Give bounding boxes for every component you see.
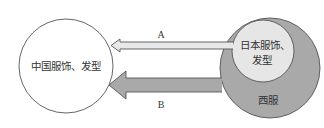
influence-diagram: 中国服饰、发型 西服 B 日本服饰、 发型 A [0, 0, 324, 128]
western-clothing-label: 西服 [258, 94, 279, 106]
japanese-clothing-label-line1: 日本服饰、 [240, 39, 290, 51]
japanese-clothing-node: 日本服饰、 发型 [232, 20, 294, 82]
japanese-clothing-label-line2: 发型 [252, 54, 272, 66]
arrow-b-label: B [158, 99, 165, 110]
chinese-clothing-node: 中国服饰、发型 [19, 19, 113, 113]
arrow-b-shape [109, 71, 222, 99]
arrow-a-shape [111, 39, 233, 52]
arrow-b: B [109, 71, 222, 110]
japanese-clothing-circle [232, 20, 294, 82]
chinese-clothing-label: 中国服饰、发型 [31, 60, 101, 72]
arrow-a: A [111, 29, 233, 52]
arrow-a-label: A [157, 29, 165, 40]
